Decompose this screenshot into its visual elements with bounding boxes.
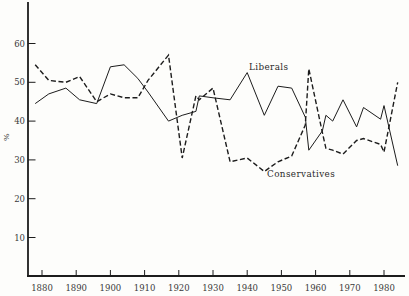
y-tick-label: 10 <box>14 233 25 243</box>
x-tick-label: 1880 <box>31 283 53 293</box>
conservatives-line <box>35 55 398 171</box>
x-tick-label: 1920 <box>168 283 190 293</box>
vote-share-line-chart: 1020304050601880189019001910192019301940… <box>0 0 409 296</box>
conservatives-series-label: Conservatives <box>267 169 335 179</box>
y-tick-label: 40 <box>14 116 25 126</box>
x-tick-label: 1940 <box>236 283 258 293</box>
x-tick-label: 1970 <box>339 283 361 293</box>
liberals-series-label: Liberals <box>249 62 289 72</box>
x-tick-label: 1980 <box>373 283 395 293</box>
x-tick-label: 1900 <box>100 283 122 293</box>
x-tick-label: 1890 <box>65 283 87 293</box>
y-tick-label: 60 <box>14 39 25 49</box>
x-tick-label: 1910 <box>134 283 156 293</box>
chart-generated-content: 1020304050601880189019001910192019301940… <box>14 39 398 293</box>
y-tick-label: 50 <box>14 77 25 87</box>
y-axis-unit-label: % <box>2 133 11 141</box>
x-tick-label: 1950 <box>271 283 293 293</box>
y-tick-label: 20 <box>14 194 25 204</box>
chart-canvas: 1020304050601880189019001910192019301940… <box>0 0 409 296</box>
liberals-line <box>35 65 398 166</box>
y-tick-label: 30 <box>14 155 25 165</box>
x-tick-label: 1930 <box>202 283 224 293</box>
x-tick-label: 1960 <box>305 283 327 293</box>
